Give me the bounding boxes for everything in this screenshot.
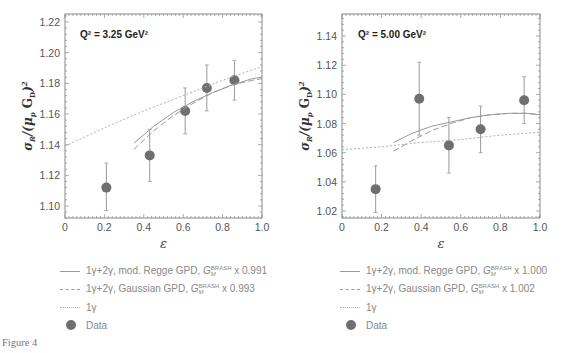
y-tick-label: 1.10 bbox=[40, 200, 61, 212]
legend-symbol-dotted-icon bbox=[60, 302, 82, 312]
legend-symbol-dot-icon bbox=[340, 320, 362, 330]
plot-frame bbox=[65, 14, 262, 218]
y-tick-label: 1.14 bbox=[40, 139, 61, 151]
legend-item: 1γ+2γ, Gaussian GPD, GBRASHM x 0.993 bbox=[60, 280, 267, 298]
y-tick-label: 1.04 bbox=[317, 176, 338, 188]
y-tick-label: 1.18 bbox=[40, 77, 61, 89]
data-point-marker bbox=[101, 183, 111, 193]
x-tick-label: 0.6 bbox=[453, 221, 468, 233]
legend-label: Data bbox=[86, 320, 107, 331]
legend-symbol-solid-icon bbox=[340, 266, 362, 276]
y-tick-label: 1.02 bbox=[317, 205, 338, 217]
legend-label: 1γ bbox=[86, 302, 97, 313]
data-points bbox=[371, 62, 529, 212]
y-axis: 1.021.041.061.081.101.121.14σR/(μp GD)2 bbox=[297, 19, 540, 218]
data-point-marker bbox=[145, 150, 155, 160]
legend-label: 1γ+2γ, mod. Regge GPD, GBRASHM x 1.000 bbox=[366, 265, 547, 277]
data-point-marker bbox=[519, 95, 529, 105]
y-tick-label: 1.10 bbox=[317, 88, 338, 100]
legend-item: Data bbox=[340, 316, 547, 334]
data-point-marker bbox=[444, 140, 454, 150]
curve-solid bbox=[134, 77, 262, 143]
x-tick-label: 1.0 bbox=[533, 221, 548, 233]
x-tick-label: 0.4 bbox=[136, 221, 151, 233]
data-point-marker bbox=[202, 83, 212, 93]
curve-dashed bbox=[134, 79, 262, 150]
x-axis-label: ε bbox=[438, 236, 445, 251]
legend-right: 1γ+2γ, mod. Regge GPD, GBRASHM x 1.0001γ… bbox=[340, 262, 547, 334]
q2-annotation: Q² = 3.25 GeV² bbox=[80, 29, 149, 40]
legend-symbol-solid-icon bbox=[60, 266, 82, 276]
x-tick-label: 0.2 bbox=[97, 221, 112, 233]
y-axis: 1.101.121.141.161.181.201.22σR/(μp GD)2 bbox=[20, 16, 262, 218]
curve-solid bbox=[394, 113, 541, 142]
legend-symbol-dashed-icon bbox=[340, 284, 362, 294]
x-axis: 00.20.40.60.81.0ε bbox=[62, 14, 269, 251]
y-tick-label: 1.06 bbox=[317, 147, 338, 159]
legend-item: Data bbox=[60, 316, 267, 334]
x-tick-label: 0.8 bbox=[493, 221, 508, 233]
data-point-marker bbox=[414, 94, 424, 104]
data-point-marker bbox=[371, 184, 381, 194]
y-tick-label: 1.20 bbox=[40, 47, 61, 59]
x-tick-label: 0 bbox=[62, 221, 68, 233]
x-tick-label: 0.2 bbox=[374, 221, 389, 233]
y-tick-label: 1.12 bbox=[317, 59, 338, 71]
x-tick-label: 0.4 bbox=[414, 221, 429, 233]
x-axis-label: ε bbox=[160, 236, 167, 251]
y-tick-label: 1.12 bbox=[40, 169, 61, 181]
y-tick-label: 1.14 bbox=[317, 30, 338, 42]
legend-symbol-dot-icon bbox=[60, 320, 82, 330]
legend-label: 1γ+2γ, Gaussian GPD, GBRASHM x 1.002 bbox=[366, 283, 535, 295]
legend-symbol-dotted-icon bbox=[340, 302, 362, 312]
data-point-marker bbox=[476, 124, 486, 134]
legend-item: 1γ bbox=[340, 298, 547, 316]
legend-item: 1γ bbox=[60, 298, 267, 316]
y-axis-label: σR/(μp GD)2 bbox=[20, 81, 37, 151]
data-points bbox=[101, 60, 239, 210]
q2-annotation: Q² = 5.00 GeV² bbox=[358, 29, 427, 40]
x-axis: 00.20.40.60.81.0ε bbox=[339, 14, 547, 251]
curve-dotted bbox=[342, 132, 540, 150]
legend-label: 1γ bbox=[366, 302, 377, 313]
x-tick-label: 0.6 bbox=[176, 221, 191, 233]
x-tick-label: 0 bbox=[339, 221, 345, 233]
legend-label: 1γ+2γ, mod. Regge GPD, GBRASHM x 0.991 bbox=[86, 265, 267, 277]
legend-item: 1γ+2γ, mod. Regge GPD, GBRASHM x 1.000 bbox=[340, 262, 547, 280]
legend-label: 1γ+2γ, Gaussian GPD, GBRASHM x 0.993 bbox=[86, 283, 255, 295]
y-tick-label: 1.16 bbox=[40, 108, 61, 120]
legend-left: 1γ+2γ, mod. Regge GPD, GBRASHM x 0.9911γ… bbox=[60, 262, 267, 334]
legend-item: 1γ+2γ, Gaussian GPD, GBRASHM x 1.002 bbox=[340, 280, 547, 298]
y-tick-label: 1.22 bbox=[40, 16, 61, 28]
y-axis-label: σR/(μp GD)2 bbox=[297, 81, 314, 151]
legend-symbol-dashed-icon bbox=[60, 284, 82, 294]
figure-caption: Figure 4 bbox=[2, 337, 37, 348]
x-tick-label: 1.0 bbox=[255, 221, 270, 233]
y-tick-label: 1.08 bbox=[317, 118, 338, 130]
plot-panel-q2-3.25: 00.20.40.60.81.0ε1.101.121.141.161.181.2… bbox=[20, 14, 269, 251]
legend-label: Data bbox=[366, 320, 387, 331]
x-tick-label: 0.8 bbox=[215, 221, 230, 233]
legend-item: 1γ+2γ, mod. Regge GPD, GBRASHM x 0.991 bbox=[60, 262, 267, 280]
plot-panel-q2-5.00: 00.20.40.60.81.0ε1.021.041.061.081.101.1… bbox=[297, 14, 547, 251]
